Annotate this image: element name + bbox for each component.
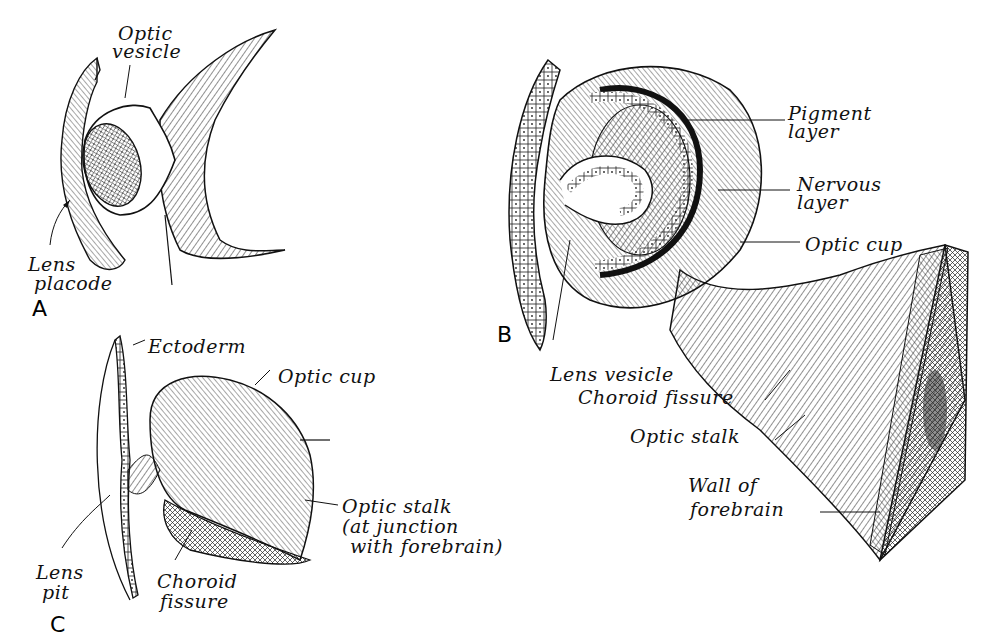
label-optic-stalk-c: (at junction <box>342 517 459 536</box>
label-choroid-fissure-c: fissure <box>160 592 229 611</box>
label-wall-of-forebrain: Wall of <box>688 476 757 495</box>
label-optic-vesicle: vesicle <box>112 42 181 61</box>
panel-letter-c: C <box>50 612 65 637</box>
panel-a-drawing <box>50 30 285 285</box>
panel-letter-b: B <box>497 322 512 347</box>
label-lens-vesicle: Lens vesicle <box>550 365 674 384</box>
label-optic-stalk-c: Optic stalk <box>342 497 452 516</box>
label-wall-of-forebrain: forebrain <box>690 500 784 519</box>
label-optic-stalk-b: Optic stalk <box>630 427 740 446</box>
label-lens-pit: Lens <box>36 563 84 582</box>
label-nervous-layer: layer <box>797 193 848 212</box>
label-choroid-fissure-c: Choroid <box>157 572 237 591</box>
label-optic-cup-b: Optic cup <box>805 235 903 254</box>
label-optic-cup-c: Optic cup <box>278 367 376 386</box>
label-ectoderm: Ectoderm <box>148 337 246 356</box>
label-choroid-fissure-b: Choroid fissure <box>578 388 734 407</box>
label-lens-pit: pit <box>42 583 69 602</box>
label-pigment-layer: layer <box>788 122 839 141</box>
label-lens-placode: placode <box>34 274 113 293</box>
panel-letter-a: A <box>32 296 47 321</box>
label-optic-stalk-c: with forebrain) <box>350 537 503 556</box>
